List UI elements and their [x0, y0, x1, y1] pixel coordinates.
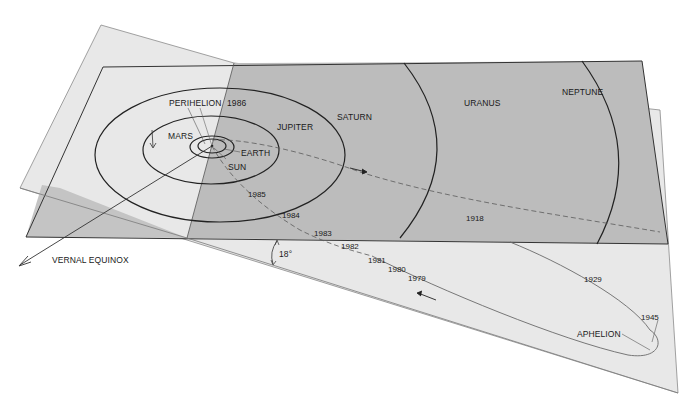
- year-1945: 1945: [641, 313, 659, 322]
- year-1929: 1929: [584, 275, 602, 284]
- year-1982: 1982: [341, 242, 359, 251]
- label-aphelion: APHELION: [577, 329, 621, 339]
- year-1985: 1985: [248, 190, 266, 199]
- year-1980: 1980: [388, 265, 406, 274]
- year-1979: 1979: [408, 274, 426, 283]
- label-uranus: URANUS: [464, 98, 501, 108]
- label-perihelion-year: 1986: [227, 98, 246, 108]
- label-inclination: 18°: [279, 249, 292, 259]
- halley-orbit-diagram: PERIHELION 1986 MARS EARTH SUN JUPITER S…: [0, 0, 690, 403]
- label-vernal-equinox: VERNAL EQUINOX: [52, 255, 129, 265]
- label-jupiter: JUPITER: [277, 122, 313, 132]
- year-1984: 1984: [282, 211, 300, 220]
- label-mars: MARS: [168, 131, 193, 141]
- year-1918: 1918: [466, 214, 484, 223]
- label-perihelion: PERIHELION: [169, 98, 222, 108]
- label-saturn: SATURN: [337, 112, 372, 122]
- year-1983: 1983: [314, 229, 332, 238]
- year-1981: 1981: [368, 256, 386, 265]
- label-neptune: NEPTUNE: [562, 87, 604, 97]
- label-sun: SUN: [228, 162, 246, 172]
- label-earth: EARTH: [241, 148, 270, 158]
- vernal-equinox-arrowhead: [19, 256, 31, 266]
